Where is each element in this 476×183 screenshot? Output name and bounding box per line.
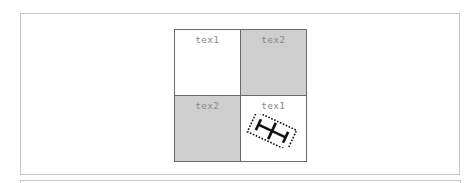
grid-cell-top-right: tex2 xyxy=(241,30,307,96)
next-figure-frame-edge xyxy=(20,180,461,183)
grid-cell-bottom-left: tex2 xyxy=(175,96,241,162)
cell-label: tex1 xyxy=(175,34,240,45)
grid-cell-top-left: tex1 xyxy=(175,30,241,96)
cell-label: tex1 xyxy=(241,100,307,111)
h-beam-icon xyxy=(246,114,298,148)
cell-label: tex2 xyxy=(241,34,307,45)
cell-label: tex2 xyxy=(175,100,240,111)
